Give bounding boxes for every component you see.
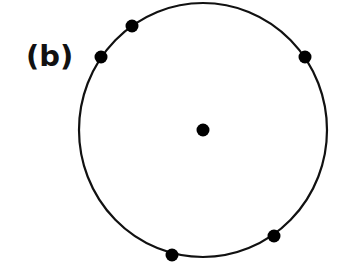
point-dot — [126, 20, 139, 33]
circle-diagram — [0, 0, 337, 262]
point-dot — [166, 249, 179, 262]
point-dot — [95, 51, 108, 64]
point-dot — [268, 230, 281, 243]
point-dot — [299, 51, 312, 64]
center-dot — [197, 124, 210, 137]
